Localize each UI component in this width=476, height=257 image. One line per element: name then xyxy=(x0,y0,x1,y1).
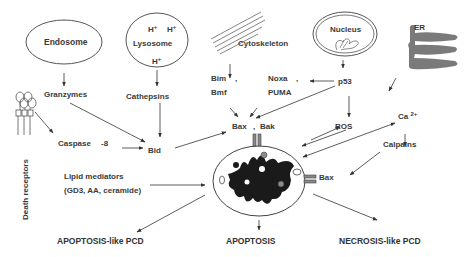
p53-label: p53 xyxy=(338,78,352,86)
ros-label: ROS xyxy=(335,123,352,131)
er-label: ER xyxy=(414,24,425,32)
death-receptors-icon xyxy=(16,92,36,135)
bak-label: Bak xyxy=(260,123,275,131)
mitochondrion-shape xyxy=(213,134,316,216)
bax-label: Bax xyxy=(232,123,247,131)
outcome-apoptosis-like: APOPTOSIS-like PCD xyxy=(57,237,144,246)
death-receptors-label: Death receptors xyxy=(22,159,30,220)
nucleus-shape xyxy=(313,12,377,56)
nucleus-label: Nucleus xyxy=(330,26,361,34)
calcium-symbol: Ca xyxy=(398,112,408,121)
noxa-label: Noxa xyxy=(268,75,288,83)
outcome-apoptosis: APOPTOSIS xyxy=(226,237,275,246)
bim-label: Bim xyxy=(211,75,226,83)
diagram-canvas: Endosome H+ H+ Lysosome H+ Cytoskeleton … xyxy=(0,0,476,257)
calcium-label: Ca 2+ xyxy=(398,113,417,121)
bax-membrane-label: Bax xyxy=(319,174,334,182)
granzymes-label: Granzymes xyxy=(44,91,87,99)
lysosome-label: Lysosome xyxy=(133,40,172,48)
bim-comma: , xyxy=(235,75,237,83)
lipid-mediators-examples: (GD3, AA, ceramide) xyxy=(64,187,141,195)
noxa-comma: , xyxy=(296,75,298,83)
bax-bak-separator: , xyxy=(253,123,255,131)
calcium-charge: 2+ xyxy=(410,111,417,117)
bmf-label: Bmf xyxy=(211,89,227,97)
bid-label: Bid xyxy=(148,147,161,155)
endosome-label: Endosome xyxy=(44,38,87,47)
caspase-label: Caspase xyxy=(58,140,91,148)
lipid-mediators-label: Lipid mediators xyxy=(64,173,124,181)
h-ion-2: H+ xyxy=(167,26,176,34)
caspase-number: -8 xyxy=(101,140,108,148)
cytoskeleton-label: Cytoskeleton xyxy=(238,40,288,48)
h-ion-3: H+ xyxy=(152,58,161,66)
cathepsins-label: Cathepsins xyxy=(126,93,169,101)
calpains-label: Calpains xyxy=(383,141,416,149)
puma-label: PUMA xyxy=(268,89,292,97)
outcome-necrosis-like: NECROSIS-like PCD xyxy=(339,237,421,246)
h-ion-1: H+ xyxy=(148,26,157,34)
